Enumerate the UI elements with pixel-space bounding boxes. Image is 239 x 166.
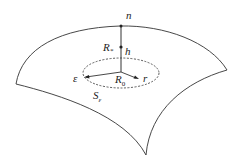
label-r-star: R*: [102, 41, 114, 55]
radius-arrow: [121, 72, 136, 78]
surface-diagram: n R* h ε R0 r Sε: [0, 0, 239, 166]
label-r0: R0: [114, 73, 126, 88]
label-s-epsilon: Sε: [93, 89, 102, 104]
normal-tip-dot: [120, 25, 123, 28]
surface-left-edge: [16, 84, 146, 155]
label-h: h: [125, 45, 131, 57]
point-star-dot: [119, 45, 122, 48]
label-n: n: [126, 9, 132, 21]
radius-arrowhead-icon: [134, 76, 140, 80]
surface-right-edge: [146, 70, 227, 155]
label-r: r: [143, 72, 148, 84]
label-epsilon: ε: [73, 72, 78, 84]
